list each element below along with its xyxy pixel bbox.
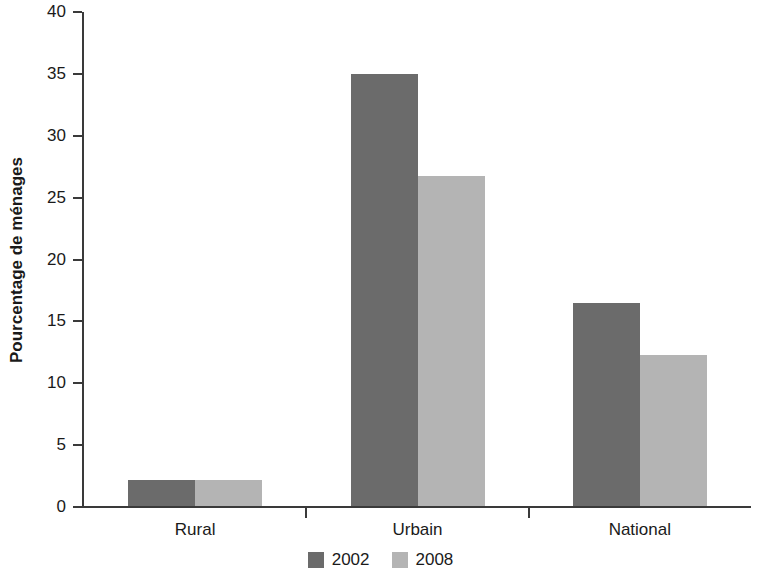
bar-layer	[84, 12, 751, 506]
y-tick-mark	[73, 11, 82, 13]
legend-label-2002: 2002	[332, 551, 370, 568]
y-tick-label: 0	[10, 498, 66, 515]
y-tick-label: 40	[10, 3, 66, 20]
y-tick-label: 10	[10, 374, 66, 391]
bar-urbain-2008	[418, 176, 485, 506]
y-tick-mark	[73, 320, 82, 322]
y-tick-label: 30	[10, 127, 66, 144]
y-tick-label: 15	[10, 312, 66, 329]
bar-rural-2002	[128, 480, 195, 506]
y-tick-label: 5	[10, 436, 66, 453]
chart-legend: 20022008	[0, 551, 761, 568]
bar-urbain-2002	[351, 74, 418, 506]
y-tick-mark	[73, 135, 82, 137]
legend-swatch-2002	[308, 552, 324, 568]
legend-entry-2008: 2008	[392, 551, 454, 568]
legend-swatch-2008	[392, 552, 408, 568]
legend-label-2008: 2008	[416, 551, 454, 568]
x-tick-label-rural: Rural	[95, 520, 295, 540]
bar-rural-2008	[195, 480, 262, 506]
x-tick-label-national: National	[540, 520, 740, 540]
y-tick-mark	[73, 444, 82, 446]
x-tick-mark	[305, 508, 307, 518]
bar-chart: Pourcentage de ménages 0510152025303540 …	[0, 0, 761, 584]
x-axis-line	[82, 506, 751, 508]
y-tick-mark	[73, 259, 82, 261]
x-tick-label-urbain: Urbain	[318, 520, 518, 540]
y-tick-label: 35	[10, 65, 66, 82]
plot-area	[84, 12, 751, 506]
x-tick-mark	[528, 508, 530, 518]
y-tick-mark	[73, 73, 82, 75]
y-tick-mark	[73, 382, 82, 384]
y-tick-mark	[73, 197, 82, 199]
y-tick-label: 25	[10, 189, 66, 206]
bar-national-2002	[573, 303, 640, 506]
legend-entry-2002: 2002	[308, 551, 370, 568]
y-tick-mark	[73, 506, 82, 508]
y-tick-label: 20	[10, 251, 66, 268]
bar-national-2008	[640, 355, 707, 506]
